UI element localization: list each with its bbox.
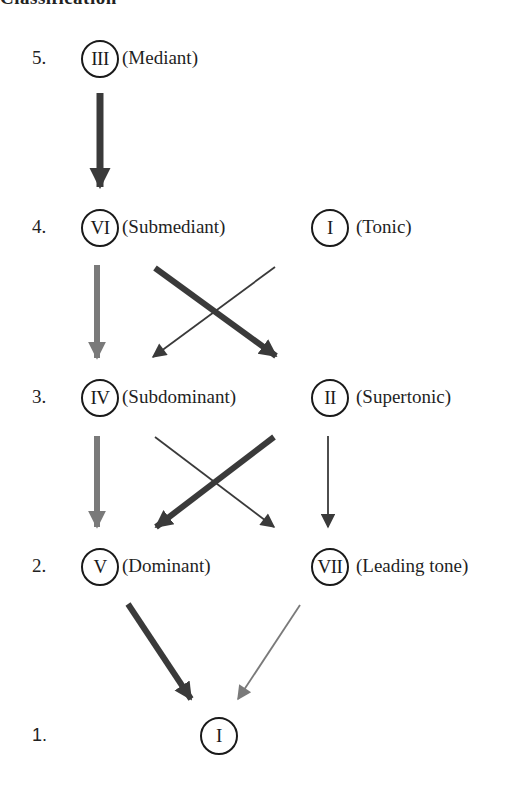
node-dominant: V xyxy=(81,548,119,586)
level-number-1: 1. xyxy=(32,725,47,746)
label-submediant: (Submediant) xyxy=(122,216,225,238)
node-subdominant: IV xyxy=(81,379,119,417)
label-supertonic: (Supertonic) xyxy=(356,386,451,408)
level-number-3: 3. xyxy=(32,386,46,408)
label-leading-tone: (Leading tone) xyxy=(356,555,468,577)
label-mediant: (Mediant) xyxy=(122,47,198,69)
label-tonic: (Tonic) xyxy=(356,216,412,238)
node-leading-tone: VII xyxy=(311,548,349,586)
node-supertonic: II xyxy=(311,379,349,417)
level-number-5: 5. xyxy=(32,47,46,69)
node-submediant: VI xyxy=(81,209,119,247)
arrow-v-to-i xyxy=(128,604,191,699)
level-number-2: 2. xyxy=(32,555,46,577)
node-tonic: I xyxy=(311,209,349,247)
arrow-vii-to-i xyxy=(238,605,300,699)
level-number-4: 4. xyxy=(32,216,46,238)
label-dominant: (Dominant) xyxy=(122,555,211,577)
node-mediant: III xyxy=(81,40,119,78)
node-tonic-final: I xyxy=(200,717,238,755)
label-subdominant: (Subdominant) xyxy=(122,386,236,408)
